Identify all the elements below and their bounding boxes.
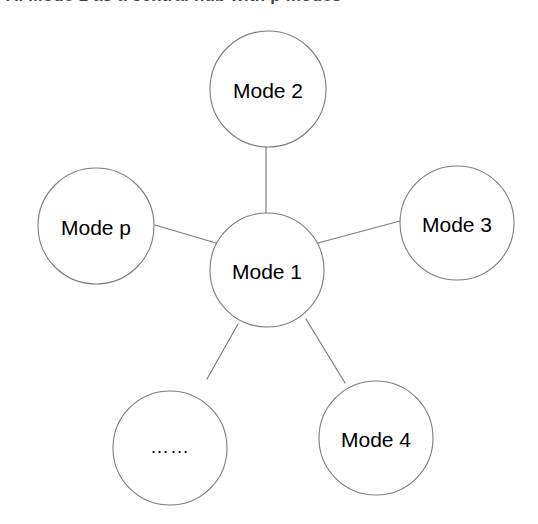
edge-center-to-ellipsis xyxy=(207,324,238,379)
star-topology-diagram: Mode 2 Mode p Mode 3 …… Mode 4 Mode 1 xyxy=(0,0,538,524)
node-mode-3[interactable]: Mode 3 xyxy=(400,166,514,280)
node-mode-p[interactable]: Mode p xyxy=(38,168,154,284)
node-mode-4[interactable]: Mode 4 xyxy=(319,381,433,495)
node-mode-1-center[interactable]: Mode 1 xyxy=(210,213,324,327)
figure-root: A. Mode 1 as a central hub with p modes … xyxy=(0,0,538,524)
node-label-mode-3: Mode 3 xyxy=(422,213,492,236)
edge-center-to-mode-4 xyxy=(306,319,345,383)
node-label-mode-p: Mode p xyxy=(61,216,131,239)
edge-center-to-mode-p xyxy=(155,225,216,243)
node-label-mode-2: Mode 2 xyxy=(233,79,303,102)
edge-center-to-mode-3 xyxy=(318,221,400,243)
node-label-mode-4: Mode 4 xyxy=(341,428,411,451)
node-mode-2[interactable]: Mode 2 xyxy=(210,31,326,147)
node-ellipsis[interactable]: …… xyxy=(113,391,227,505)
node-label-mode-1: Mode 1 xyxy=(232,260,302,283)
node-label-ellipsis: …… xyxy=(150,436,190,457)
